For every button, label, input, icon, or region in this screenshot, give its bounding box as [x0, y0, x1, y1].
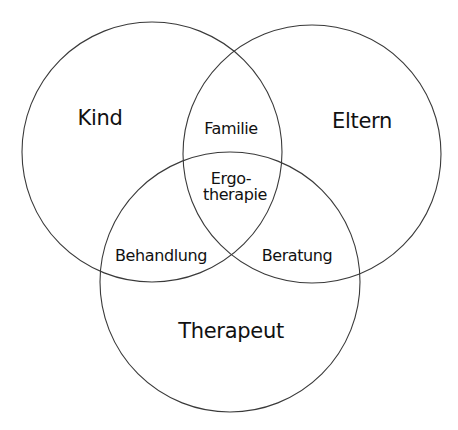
label-beratung: Beratung [262, 246, 333, 265]
label-therapeut: Therapeut [177, 319, 284, 343]
venn-diagram: Kind Eltern Therapeut Familie Ergo- ther… [0, 0, 458, 430]
label-eltern: Eltern [332, 109, 392, 133]
label-behandlung: Behandlung [115, 246, 207, 265]
label-kind: Kind [77, 106, 122, 130]
circle-kind [22, 22, 282, 282]
circle-eltern [183, 25, 441, 283]
label-ergotherapie-line2: therapie [203, 185, 267, 204]
label-familie: Familie [204, 119, 258, 138]
